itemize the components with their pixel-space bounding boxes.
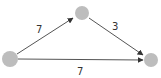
edge-label-a-to-b: 7 xyxy=(36,24,42,35)
edge-label-b-to-c: 3 xyxy=(112,21,118,32)
edge-a-to-c xyxy=(18,59,143,60)
node-b xyxy=(75,6,89,20)
edge-a-to-b xyxy=(17,18,73,54)
edge-label-a-to-c: 7 xyxy=(77,66,83,77)
node-a xyxy=(2,51,18,67)
graph-diagram: 7 3 7 xyxy=(0,0,161,78)
node-c xyxy=(144,53,158,67)
